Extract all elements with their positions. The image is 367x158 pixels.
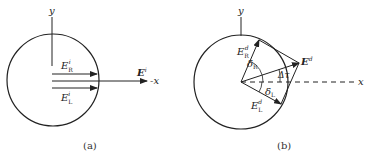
x-axis-label-b: x (358, 76, 364, 87)
label-E-L-a: ELi (60, 90, 72, 105)
label-delta-L: δL (265, 86, 275, 98)
y-axis-label-b: y (237, 5, 244, 16)
diagram-canvas: y ERi ELi Ei -x (a) y x ERd (0, 0, 367, 158)
parallelogram-top-b (259, 40, 299, 63)
label-delta-tau: Δτ (277, 70, 290, 80)
caption-b: (b) (277, 140, 291, 151)
label-E-total-a: Ei (136, 66, 147, 78)
circle-a (7, 34, 99, 126)
label-E-L-b: ELd (250, 98, 262, 113)
panel-b: y x ERd ELd Ed δR δL Δτ (b) (194, 5, 364, 151)
caption-a: (a) (83, 140, 97, 151)
label-E-R-a: ERi (60, 58, 73, 73)
panel-a: y ERi ELi Ei -x (a) (7, 5, 159, 151)
label-E-total-b: Ed (300, 55, 313, 67)
arc-delta-L (259, 82, 262, 92)
label-delta-R: δR (247, 58, 258, 70)
y-axis-label-a: y (48, 5, 55, 16)
x-axis-label-a: -x (150, 75, 159, 86)
label-E-R-b: ERd (236, 44, 249, 59)
